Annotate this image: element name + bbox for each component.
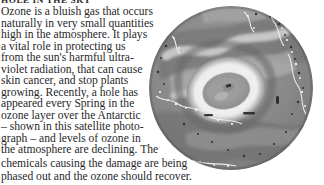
body-line: the atmosphere are declining. The: [1, 144, 158, 156]
body-line: chemicals causing the damage are being: [1, 158, 187, 170]
body-line: phased out and the ozone should recover.: [1, 171, 192, 183]
article-page: HOLE IN THE SKY Ozone is a bluish gas th…: [0, 0, 324, 185]
article-text-column: HOLE IN THE SKY Ozone is a bluish gas th…: [0, 0, 324, 185]
body-line: from the sun's harmful ultra-: [1, 52, 134, 64]
body-line: appeared every Spring in the: [1, 98, 134, 110]
body-line: – shown in this satellite photo-: [1, 121, 144, 133]
body-line: Ozone is a bluish gas that occurs: [1, 6, 153, 18]
body-line: high in the atmosphere. It plays: [1, 29, 147, 41]
body-line: skin cancer, and stop plants: [1, 75, 128, 87]
